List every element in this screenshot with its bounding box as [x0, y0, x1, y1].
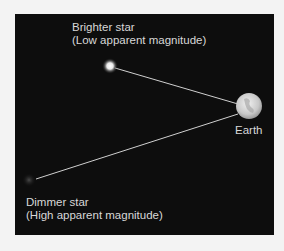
bright-star-subtitle: (Low apparent magnitude) [72, 34, 206, 47]
dim-star-line [36, 114, 238, 179]
dim-star-title: Dimmer star [26, 196, 163, 209]
dim-star-subtitle: (High apparent magnitude) [26, 209, 163, 222]
bright-star-line [115, 68, 238, 104]
bright-star-icon [102, 58, 118, 74]
bright-star-title: Brighter star [72, 21, 206, 34]
dim-star-label: Dimmer star (High apparent magnitude) [26, 196, 163, 222]
bright-star-label: Brighter star (Low apparent magnitude) [72, 21, 206, 47]
dim-star-icon [22, 173, 36, 187]
earth-label: Earth [235, 124, 263, 137]
